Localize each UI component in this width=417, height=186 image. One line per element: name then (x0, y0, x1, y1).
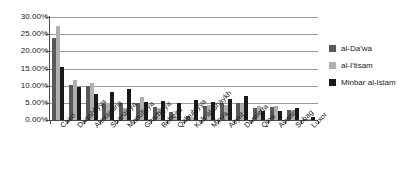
bar (60, 67, 64, 120)
legend-label: al-Da'wa (341, 44, 372, 53)
legend-swatch-icon (329, 79, 336, 86)
legend-label: al-I'tisam (341, 61, 373, 70)
bar-group (236, 17, 251, 120)
y-tick-label: 30.00% (2, 13, 48, 21)
legend-item: al-I'tisam (329, 58, 415, 72)
legend-item: Minbar al-Islam (329, 75, 415, 89)
bar-group (69, 17, 84, 120)
y-axis-labels: 30.00%25.00%20.00%15.00%10.00%5.00%0.00% (0, 0, 48, 186)
y-tick-label: 0.00% (2, 116, 48, 124)
bar-group (270, 17, 285, 120)
y-tick-label: 25.00% (2, 30, 48, 38)
bar (77, 87, 81, 120)
y-tick-label: 15.00% (2, 65, 48, 73)
legend-label: Minbar al-Islam (341, 78, 396, 87)
bar-group (287, 17, 302, 120)
bar-group (303, 17, 318, 120)
chart-legend: al-Da'waal-I'tisamMinbar al-Islam (329, 41, 415, 92)
y-tick-label: 10.00% (2, 82, 48, 90)
bars-layer (50, 17, 318, 120)
bar-group (52, 17, 67, 120)
legend-item: al-Da'wa (329, 41, 415, 55)
legend-swatch-icon (329, 62, 336, 69)
bar-chart: 30.00%25.00%20.00%15.00%10.00%5.00%0.00%… (0, 0, 417, 186)
legend-swatch-icon (329, 45, 336, 52)
x-axis-labels: CairoDaqahliyyaAlexandriaSharqiyyaMonufi… (50, 124, 350, 186)
y-tick-label: 20.00% (2, 47, 48, 55)
y-tick-label: 5.00% (2, 99, 48, 107)
